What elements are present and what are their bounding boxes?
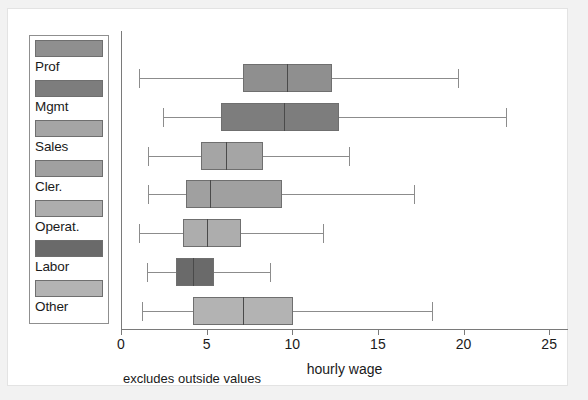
whisker-cap-lower	[142, 302, 143, 321]
legend-label: Sales	[35, 137, 103, 157]
whisker-lower	[148, 156, 201, 157]
legend-label: Cler.	[35, 177, 103, 197]
box-iqr	[201, 142, 263, 170]
legend-label: Mgmt	[35, 97, 103, 117]
median-line	[226, 142, 227, 170]
whisker-cap-upper	[414, 185, 415, 204]
whisker-lower	[148, 194, 186, 195]
whisker-lower	[142, 311, 193, 312]
chart-footnote: excludes outside values	[123, 371, 261, 386]
median-line	[287, 64, 288, 92]
whisker-cap-lower	[163, 108, 164, 127]
median-line	[207, 219, 208, 247]
whisker-cap-upper	[458, 69, 459, 88]
x-tick-label: 20	[456, 336, 472, 352]
whisker-cap-upper	[506, 108, 507, 127]
box-iqr	[176, 258, 215, 286]
legend-item-operat[interactable]: Operat.	[35, 200, 103, 240]
legend-swatch	[35, 240, 103, 257]
whisker-upper	[339, 117, 507, 118]
whisker-cap-upper	[432, 302, 433, 321]
whisker-lower	[147, 272, 176, 273]
median-line	[284, 103, 285, 131]
legend-swatch	[35, 40, 103, 57]
legend-swatch	[35, 80, 103, 97]
x-tick-label: 25	[541, 336, 557, 352]
whisker-cap-lower	[147, 263, 148, 282]
x-tick-label: 5	[203, 336, 211, 352]
whisker-upper	[293, 311, 432, 312]
legend-label: Operat.	[35, 217, 103, 237]
whisker-cap-lower	[148, 147, 149, 166]
whisker-upper	[241, 233, 323, 234]
x-tick	[121, 330, 122, 335]
median-line	[193, 258, 194, 286]
x-tick	[207, 330, 208, 335]
whisker-lower	[163, 117, 221, 118]
whisker-cap-lower	[139, 69, 140, 88]
legend-item-sales[interactable]: Sales	[35, 120, 103, 160]
x-tick-label: 0	[117, 336, 125, 352]
legend-item-labor[interactable]: Labor	[35, 240, 103, 280]
whisker-lower	[139, 233, 183, 234]
legend-item-cler[interactable]: Cler.	[35, 160, 103, 200]
legend-item-prof[interactable]: Prof	[35, 40, 103, 80]
legend-item-other[interactable]: Other	[35, 280, 103, 320]
y-axis-line	[121, 31, 122, 329]
legend-label: Prof	[35, 57, 103, 77]
whisker-cap-upper	[270, 263, 271, 282]
legend: ProfMgmtSalesCler.Operat.LaborOther	[29, 35, 109, 324]
x-tick	[464, 330, 465, 335]
whisker-cap-lower	[148, 185, 149, 204]
plot-area: 0510152025 hourly wage	[121, 31, 568, 329]
box-iqr	[186, 180, 282, 208]
legend-swatch	[35, 120, 103, 137]
whisker-upper	[214, 272, 270, 273]
legend-swatch	[35, 200, 103, 217]
x-tick	[549, 330, 550, 335]
box-iqr	[221, 103, 338, 131]
chart-canvas: ProfMgmtSalesCler.Operat.LaborOther 0510…	[7, 8, 568, 386]
box-iqr	[183, 219, 241, 247]
whisker-upper	[263, 156, 349, 157]
x-tick	[378, 330, 379, 335]
x-tick-label: 10	[284, 336, 300, 352]
legend-label: Other	[35, 297, 103, 317]
legend-label: Labor	[35, 257, 103, 277]
whisker-cap-lower	[139, 224, 140, 243]
whisker-lower	[139, 78, 243, 79]
whisker-cap-upper	[323, 224, 324, 243]
legend-swatch	[35, 160, 103, 177]
whisker-cap-upper	[349, 147, 350, 166]
whisker-upper	[332, 78, 459, 79]
x-axis-line	[121, 329, 568, 330]
x-tick-label: 15	[370, 336, 386, 352]
x-tick	[292, 330, 293, 335]
whisker-upper	[282, 194, 414, 195]
legend-item-mgmt[interactable]: Mgmt	[35, 80, 103, 120]
chart-page: ProfMgmtSalesCler.Operat.LaborOther 0510…	[0, 0, 588, 400]
legend-swatch	[35, 280, 103, 297]
median-line	[210, 180, 211, 208]
median-line	[243, 297, 244, 325]
